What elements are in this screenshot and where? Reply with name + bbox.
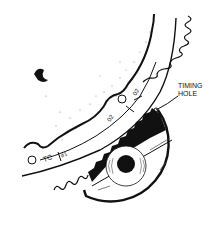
pinion-shaft <box>117 155 135 173</box>
callout-hole-label: HOLE <box>178 90 197 97</box>
mark-tc-label: TC <box>42 153 53 163</box>
callout-timing-label: TIMING <box>178 82 203 89</box>
mark-cylinder-1-label: #1 <box>60 150 69 159</box>
bolt-hole-left <box>28 156 36 164</box>
flywheel-mark-band <box>40 62 156 160</box>
mark-02b-label: 02 <box>132 87 141 96</box>
flywheel-cutout <box>34 69 48 82</box>
mark-02a-label: 02 <box>106 113 115 122</box>
timing-hole-leader <box>156 96 178 110</box>
ring-gear-teeth-lower <box>54 175 88 190</box>
flywheel-outer-rim <box>22 18 176 176</box>
flywheel-timing-diagram: TC #1 02 02 TIMING HOLE <box>0 0 221 232</box>
ring-gear-teeth-upper <box>143 16 191 82</box>
bolt-hole-top <box>118 95 126 103</box>
